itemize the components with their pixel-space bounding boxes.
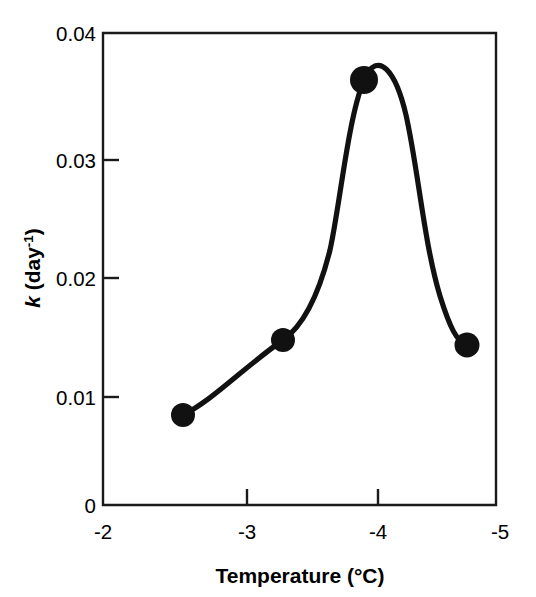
axis-frame-rect [103,33,496,505]
x-tick-label--2: -2 [94,520,112,543]
figure-container: 0.04 0.03 0.02 0.01 0 -2 -3 -4 -5 Temper… [0,0,536,597]
y-axis-ticks [103,160,119,397]
x-axis-title: Temperature (°C) [215,564,384,587]
x-tick-label--3: -3 [238,520,256,543]
y-axis-title: k (day-1) [21,228,44,308]
x-tick-label--4: -4 [369,520,387,543]
line-chart: 0.04 0.03 0.02 0.01 0 -2 -3 -4 -5 Temper… [0,0,536,597]
data-point-1 [271,328,295,352]
series-line-k [183,65,467,415]
y-tick-label-0.03: 0.03 [56,149,96,172]
y-tick-label-0.01: 0.01 [56,386,96,409]
y-tick-label-0.02: 0.02 [56,267,96,290]
y-tick-label-0.04: 0.04 [56,22,96,45]
data-point-0 [171,403,195,427]
y-tick-labels: 0.04 0.03 0.02 0.01 0 [56,22,96,517]
x-tick-labels: -2 -3 -4 -5 [94,520,509,543]
data-point-3 [455,333,480,358]
data-point-2 [350,66,378,94]
y-tick-label-0: 0 [85,494,96,517]
plot-frame [103,33,496,505]
y-axis-title-open: (day [21,247,44,296]
data-curve [183,65,467,415]
svg-text:k (day-1): k (day-1) [21,228,44,308]
x-tick-label--5: -5 [491,520,509,543]
x-axis-ticks [247,489,378,505]
y-axis-title-close: ) [21,228,44,235]
y-axis-title-superscript: -1 [21,235,36,247]
data-markers [171,66,480,427]
